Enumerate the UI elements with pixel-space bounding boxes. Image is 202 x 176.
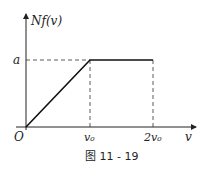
y-axis-label: Nf(v)	[30, 14, 62, 28]
y-tick-a: a	[13, 53, 20, 67]
x-axis-label: v	[185, 130, 192, 144]
distribution-graph: Nf(v) a O v₀ 2v₀ v 图 11 - 19	[0, 0, 202, 176]
origin-label: O	[14, 130, 24, 144]
x-tick-v0: v₀	[84, 131, 95, 144]
distribution-curve	[26, 60, 153, 127]
figure-caption: 图 11 - 19	[85, 150, 138, 163]
x-tick-2v0: 2v₀	[143, 131, 162, 144]
